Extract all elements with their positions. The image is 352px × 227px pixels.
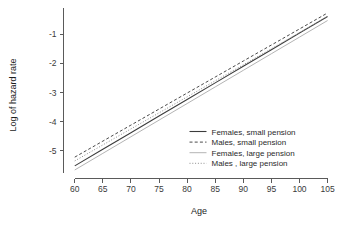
x-tick-label-9: 105 [321, 184, 335, 194]
x-tick-label-7: 95 [267, 184, 277, 194]
x-tick-label-6: 90 [239, 184, 249, 194]
line-chart-plot: -1-2-3-4-56065707580859095100105 Age Log… [0, 0, 352, 227]
legend-label-0: Females, small pension [212, 128, 296, 137]
x-tick-label-8: 100 [292, 184, 306, 194]
x-axis-title: Age [191, 206, 207, 216]
legend-label-1: Males, small pension [212, 138, 287, 147]
x-tick-label-5: 85 [210, 184, 220, 194]
x-tick-label-0: 60 [70, 184, 80, 194]
y-tick-label-4: -5 [49, 146, 57, 156]
series-group [75, 13, 328, 170]
legend-label-2: Females, large pension [212, 149, 295, 158]
chart-legend: Females, small pensionMales, small pensi… [190, 128, 296, 169]
y-tick-label-2: -3 [49, 88, 57, 98]
x-tick-label-3: 75 [154, 184, 164, 194]
series-line-2 [75, 21, 328, 170]
series-line-3 [75, 17, 328, 161]
x-tick-label-2: 70 [126, 184, 136, 194]
y-tick-label-3: -4 [49, 117, 57, 127]
x-tick-label-4: 80 [182, 184, 192, 194]
x-tick-label-1: 65 [98, 184, 108, 194]
legend-label-3: Males , large pension [212, 159, 288, 168]
y-tick-label-1: -2 [49, 58, 57, 68]
y-tick-label-0: -1 [49, 29, 57, 39]
chart-figure: -1-2-3-4-56065707580859095100105 Age Log… [0, 0, 352, 227]
y-axis-title: Log of hazard rate [8, 58, 18, 131]
tick-labels-group: -1-2-3-4-56065707580859095100105 [49, 29, 335, 193]
